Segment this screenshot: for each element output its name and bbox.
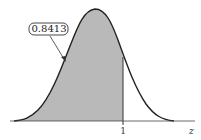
axis-variable-label: z — [189, 126, 194, 136]
annotation-arrow — [50, 36, 64, 59]
tick-label-one: 1 — [119, 126, 127, 136]
area-value-label: 0.8413 — [31, 23, 67, 35]
normal-curve-chart — [0, 0, 201, 140]
